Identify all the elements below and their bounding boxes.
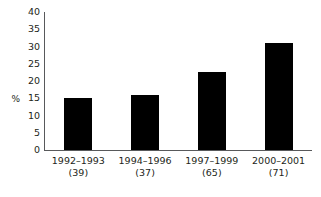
bar: [64, 98, 92, 150]
y-tick-label: 15: [18, 93, 40, 103]
x-tick-count: (71): [239, 167, 319, 179]
bar-chart: % 4035302520151050 1992–1993(39)1994–199…: [0, 0, 321, 197]
y-tick-label: 30: [18, 42, 40, 52]
y-tick-label: 0: [18, 145, 40, 155]
y-tick-label: 5: [18, 128, 40, 138]
x-tick-period: 2000–2001: [239, 155, 319, 167]
x-axis-line: [44, 150, 312, 151]
bar: [265, 43, 293, 150]
y-tick-label: 10: [18, 111, 40, 121]
bar: [131, 95, 159, 150]
x-tick-label: 2000–2001(71): [239, 155, 319, 179]
y-tick-label: 20: [18, 76, 40, 86]
y-tick-label: 40: [18, 7, 40, 17]
y-tick-label: 35: [18, 24, 40, 34]
bar: [198, 72, 226, 150]
y-tick-label: 25: [18, 59, 40, 69]
plot-area: [45, 12, 312, 150]
